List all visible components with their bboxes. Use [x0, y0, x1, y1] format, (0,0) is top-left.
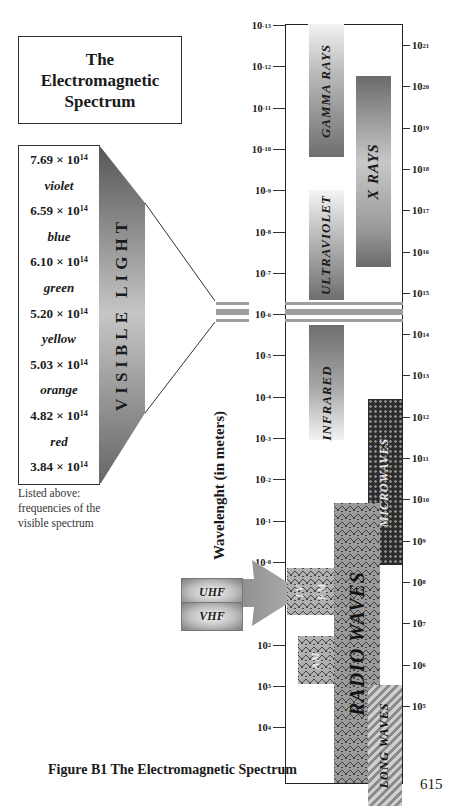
tick-base: 10: [255, 227, 266, 238]
tick-base: 10: [412, 205, 423, 216]
tick-mark: [402, 417, 410, 418]
frequency-tick: 1016: [402, 247, 429, 258]
tick-mark: [273, 149, 285, 150]
frequency-tick: 108: [402, 577, 426, 588]
tick-mark: [402, 334, 410, 335]
tick-base: 10: [255, 185, 266, 196]
visible-band-stripe-bottom: [285, 319, 403, 322]
visible-stripe-middle: [216, 309, 249, 315]
frequency-tick: 109: [402, 536, 426, 547]
wavelength-tick: 10-3: [255, 433, 285, 444]
wavelength-tick: 10-7: [255, 268, 285, 279]
tick-mark: [402, 86, 410, 87]
tick-base: 10: [257, 681, 268, 692]
frequency-tick: 1013: [402, 370, 429, 381]
frequency-tick: 1015: [402, 288, 429, 299]
tick-base: 10: [412, 412, 423, 423]
tick-mark: [402, 128, 410, 129]
tick-base: 10: [252, 61, 263, 72]
frequency-tick: 1018: [402, 164, 429, 175]
tick-base: 10: [257, 722, 268, 733]
long-waves-label: LONG WAVES: [368, 685, 402, 806]
tick-base: 10: [257, 640, 268, 651]
gamma-rays-label: GAMMA RAYS: [309, 24, 344, 157]
tick-mark: [273, 397, 285, 398]
wavelength-tick: 10-10: [252, 144, 285, 155]
figure-caption: Figure B1 The Electromagnetic Spectrum: [48, 762, 297, 778]
frequency-tick: 1012: [402, 412, 429, 423]
tick-mark: [273, 727, 285, 728]
tick-mark: [402, 252, 410, 253]
x-rays-label: X RAYS: [356, 76, 391, 267]
wavelength-tick: 102: [257, 640, 285, 651]
tick-base: 10: [255, 516, 266, 527]
tick-mark: [273, 314, 285, 315]
tick-mark: [273, 521, 285, 522]
tick-mark: [273, 25, 285, 26]
tv-label: TV: [287, 568, 311, 615]
wavelength-tick: 10-11: [252, 103, 285, 114]
wavelength-tick: 10-5: [255, 350, 285, 361]
tick-mark: [273, 66, 285, 67]
tick-mark: [273, 479, 285, 480]
tick-base: 10: [255, 474, 266, 485]
tick-mark: [273, 108, 285, 109]
tick-mark: [402, 375, 410, 376]
tick-mark: [273, 645, 285, 646]
wavelength-tick: 10-4: [255, 392, 285, 403]
tick-base: 10: [412, 536, 423, 547]
wavelength-tick: 10-8: [255, 227, 285, 238]
tick-base: 10: [412, 123, 423, 134]
tick-mark: [273, 355, 285, 356]
tick-base: 10: [412, 288, 423, 299]
frequency-tick: 1014: [402, 329, 429, 340]
wavelength-tick: 10-1: [255, 516, 285, 527]
tick-base: 10: [412, 370, 423, 381]
frequency-tick: 105: [402, 701, 426, 712]
tick-base: 10: [255, 309, 266, 320]
frequency-tick: 107: [402, 618, 426, 629]
tick-mark: [402, 623, 410, 624]
tick-mark: [273, 273, 285, 274]
visible-stripe-top: [216, 302, 249, 305]
tick-mark: [402, 706, 410, 707]
tick-mark: [402, 458, 410, 459]
frequency-tick: 1021: [402, 40, 429, 51]
tick-mark: [402, 169, 410, 170]
tick-mark: [402, 541, 410, 542]
tick-base: 10: [252, 20, 263, 31]
page-number: 615: [420, 776, 443, 793]
tick-mark: [402, 210, 410, 211]
tick-base: 10: [412, 40, 423, 51]
infrared-label: INFRARED: [309, 325, 344, 440]
frequency-tick: 1020: [402, 81, 429, 92]
tick-base: 10: [412, 81, 423, 92]
tick-base: 10: [412, 247, 423, 258]
tick-base: 10: [412, 164, 423, 175]
tick-mark: [273, 232, 285, 233]
tick-base: 10: [252, 144, 263, 155]
wavelength-tick: 10-2: [255, 474, 285, 485]
visible-band-stripe-middle: [285, 309, 403, 315]
wavelength-tick: 10-13: [252, 20, 285, 31]
tick-mark: [402, 499, 410, 500]
frequency-tick: 1017: [402, 205, 429, 216]
tick-base: 10: [412, 494, 423, 505]
fm-label: FM: [310, 568, 334, 615]
tick-base: 10: [412, 701, 423, 712]
wavelength-tick: 10-9: [255, 185, 285, 196]
visible-light-note: Listed above: frequencies of the visible…: [18, 486, 118, 531]
tick-mark: [402, 45, 410, 46]
tick-mark: [402, 293, 410, 294]
tick-base: 10: [255, 392, 266, 403]
frequency-tick: 1010: [402, 494, 429, 505]
vhf-box: VHF: [181, 602, 243, 631]
tick-mark: [273, 190, 285, 191]
tick-base: 10: [255, 268, 266, 279]
tick-base: 10: [412, 577, 423, 588]
frequency-tick: 1011: [402, 453, 429, 464]
tick-base: 10: [412, 660, 423, 671]
tick-mark: [402, 582, 410, 583]
tick-base: 10: [412, 618, 423, 629]
tick-mark: [402, 665, 410, 666]
